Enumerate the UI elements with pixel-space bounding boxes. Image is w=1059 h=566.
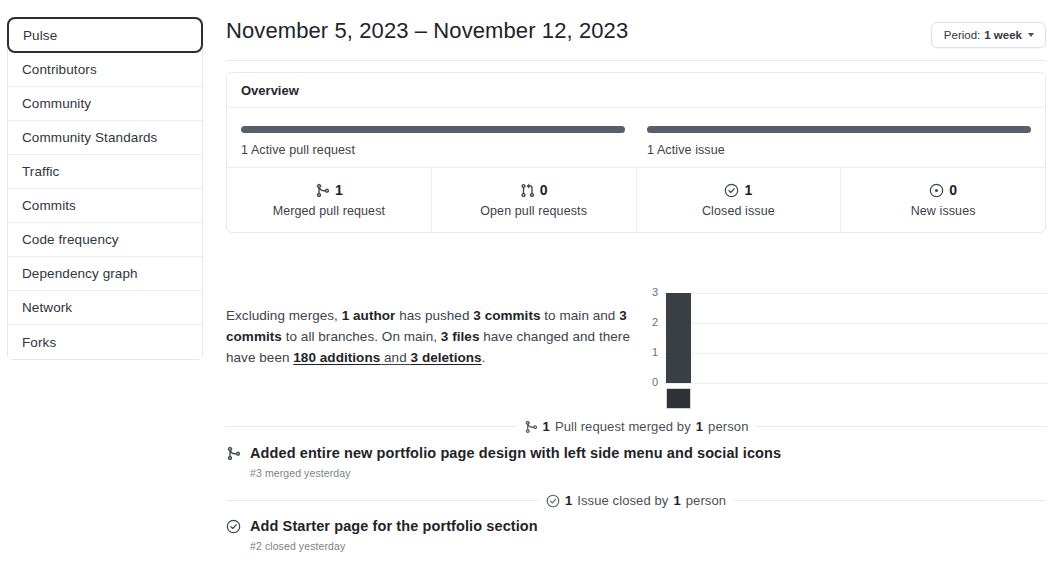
merged-person-count: 1 xyxy=(696,419,703,434)
sidebar-item-label: Forks xyxy=(22,335,56,350)
stat-value: 0 xyxy=(949,182,957,198)
closed-issue-item[interactable]: Add Starter page for the portfolio secti… xyxy=(226,517,1026,552)
stat-value-row: 0 xyxy=(847,181,1039,199)
commits-bar-chart: 3 2 1 0 xyxy=(636,281,1048,403)
activity-body: Add Starter page for the portfolio secti… xyxy=(250,517,538,552)
y-axis-tick: 2 xyxy=(636,316,658,328)
active-pull-request-bar xyxy=(241,126,625,133)
summary-mid1: has pushed xyxy=(395,308,473,323)
sidebar-item-dependency-graph[interactable]: Dependency graph xyxy=(8,257,202,291)
sidebar-item-network[interactable]: Network xyxy=(8,291,202,325)
commits-summary-text: Excluding merges, 1 author has pushed 3 … xyxy=(226,305,636,368)
activity-body: Added entire new portfolio page design w… xyxy=(250,444,781,479)
summary-mid2: to main and xyxy=(541,308,620,323)
divider-line xyxy=(734,500,1046,501)
issue-opened-icon xyxy=(929,183,944,198)
issue-closed-icon xyxy=(226,517,241,552)
sidebar-item-code-frequency[interactable]: Code frequency xyxy=(8,223,202,257)
issue-closed-icon xyxy=(724,183,739,198)
active-summary-bars: 1 Active pull request 1 Active issue xyxy=(227,108,1045,167)
pull-request-meta: #3 merged yesterday xyxy=(250,467,781,479)
active-issue-label: 1 Active issue xyxy=(647,143,1031,157)
git-merge-icon xyxy=(226,444,241,479)
stat-value-row: 0 xyxy=(438,181,630,199)
divider-text: 1 Issue closed by 1 person xyxy=(538,493,734,508)
stat-closed-issue[interactable]: 1 Closed issue xyxy=(637,168,842,232)
stat-value: 1 xyxy=(335,182,343,198)
gridline xyxy=(664,293,1048,294)
stat-value-row: 1 xyxy=(233,181,425,199)
issue-title[interactable]: Add Starter page for the portfolio secti… xyxy=(250,517,538,536)
period-value-label: 1 week xyxy=(984,29,1022,41)
divider-line xyxy=(226,500,538,501)
divider-line xyxy=(756,426,1046,427)
active-pull-request-label: 1 Active pull request xyxy=(241,143,625,157)
overview-card-title: Overview xyxy=(227,73,1045,108)
sidebar-item-community[interactable]: Community xyxy=(8,87,202,121)
closed-text-mid: Issue closed by xyxy=(577,493,668,508)
summary-commits-main: 3 commits xyxy=(473,308,540,323)
summary-suffix: . xyxy=(482,350,486,365)
sidebar-item-label: Network xyxy=(22,300,72,315)
stat-value: 0 xyxy=(540,182,548,198)
pull-requests-merged-divider: 1 Pull request merged by 1 person xyxy=(226,419,1046,434)
stat-label: New issues xyxy=(847,204,1039,218)
active-pull-request-bar-group: 1 Active pull request xyxy=(241,126,625,157)
stat-new-issues[interactable]: 0 New issues xyxy=(841,168,1045,232)
closed-count: 1 xyxy=(565,493,572,508)
sidebar-item-label: Community xyxy=(22,96,91,111)
sidebar-item-label: Code frequency xyxy=(22,232,119,247)
closed-text-end: person xyxy=(686,493,726,508)
merged-pull-request-item[interactable]: Added entire new portfolio page design w… xyxy=(226,444,1026,479)
stat-label: Closed issue xyxy=(643,204,835,218)
summary-mid3: to all branches. On main, xyxy=(282,329,441,344)
active-issue-bar xyxy=(647,126,1031,133)
main-content: November 5, 2023 – November 12, 2023 Per… xyxy=(226,0,1048,566)
sidebar-item-commits[interactable]: Commits xyxy=(8,189,202,223)
y-axis-tick: 1 xyxy=(636,346,658,358)
sidebar-item-pulse[interactable]: Pulse xyxy=(7,17,203,53)
chevron-down-icon xyxy=(1028,33,1034,37)
closed-person-count: 1 xyxy=(673,493,680,508)
period-selector-button[interactable]: Period: 1 week xyxy=(931,22,1046,48)
summary-deletions-link[interactable]: 3 deletions xyxy=(411,350,482,365)
sidebar-item-contributors[interactable]: Contributors xyxy=(8,53,202,87)
active-issue-bar-group: 1 Active issue xyxy=(647,126,1031,157)
chart-plot-area xyxy=(664,287,1048,383)
insights-sidebar: Pulse Contributors Community Community S… xyxy=(7,17,203,360)
stat-value: 1 xyxy=(744,182,752,198)
pulse-page: Pulse Contributors Community Community S… xyxy=(0,0,1059,566)
summary-files: 3 files xyxy=(441,329,480,344)
chart-date-swatch xyxy=(666,388,691,409)
stat-open-pull-requests[interactable]: 0 Open pull requests xyxy=(432,168,637,232)
overview-stats-row: 1 Merged pull request 0 Open pull reques… xyxy=(227,167,1045,232)
sidebar-item-label: Dependency graph xyxy=(22,266,138,281)
stat-merged-pull-request[interactable]: 1 Merged pull request xyxy=(227,168,432,232)
divider-text: 1 Pull request merged by 1 person xyxy=(516,419,757,434)
issue-closed-icon xyxy=(546,494,560,508)
summary-prefix: Excluding merges, xyxy=(226,308,342,323)
git-merge-icon xyxy=(315,183,330,198)
sidebar-item-traffic[interactable]: Traffic xyxy=(8,155,202,189)
merged-text-end: person xyxy=(708,419,748,434)
gridline xyxy=(664,323,1048,324)
sidebar-item-community-standards[interactable]: Community Standards xyxy=(8,121,202,155)
summary-authors: 1 author xyxy=(342,308,396,323)
summary-mid5: and xyxy=(380,350,410,365)
merged-text-mid: Pull request merged by xyxy=(555,419,691,434)
axis-baseline xyxy=(664,383,1048,384)
period-prefix-label: Period: xyxy=(944,29,980,41)
gridline xyxy=(664,353,1048,354)
issue-meta: #2 closed yesterday xyxy=(250,540,538,552)
summary-additions-link[interactable]: 180 additions xyxy=(293,350,380,365)
sidebar-item-forks[interactable]: Forks xyxy=(8,325,202,359)
git-pull-request-icon xyxy=(520,183,535,198)
git-merge-icon xyxy=(524,420,538,434)
divider-line xyxy=(226,426,516,427)
stat-label: Open pull requests xyxy=(438,204,630,218)
pull-request-title[interactable]: Added entire new portfolio page design w… xyxy=(250,444,781,463)
chart-bar[interactable] xyxy=(666,293,691,383)
stat-value-row: 1 xyxy=(643,181,835,199)
stat-label: Merged pull request xyxy=(233,204,425,218)
overview-card: Overview 1 Active pull request 1 Active … xyxy=(226,72,1046,233)
